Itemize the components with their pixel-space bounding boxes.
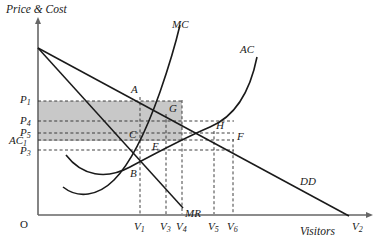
point-label-h: H	[216, 120, 224, 131]
visitor-label-v6-subscript: 6	[234, 225, 238, 234]
visitor-label-v2-subscript: 2	[359, 225, 363, 234]
dd-curve-label: DD	[300, 176, 316, 187]
visitor-label-v1: V1	[134, 221, 145, 232]
visitor-label-v5: V5	[208, 221, 219, 232]
visitor-label-v5-subscript: 5	[215, 225, 219, 234]
y-axis-title: Price & Cost	[6, 4, 67, 16]
visitor-label-v5-base: V	[208, 220, 215, 232]
visitor-label-v3-base: V	[160, 220, 167, 232]
price-label-p5-subscript: 5	[27, 131, 31, 140]
point-label-b: B	[130, 168, 137, 179]
mc-curve-label: MC	[172, 19, 189, 30]
visitor-label-v1-subscript: 1	[141, 225, 145, 234]
price-label-p3-base: P	[20, 144, 27, 156]
price-label-p4: P4	[20, 115, 31, 126]
visitor-label-v4: V4	[176, 221, 187, 232]
mr-curve-label: MR	[185, 208, 201, 219]
visitor-label-v1-base: V	[134, 220, 141, 232]
price-label-p1-base: P	[20, 93, 27, 105]
price-label-p3-subscript: 3	[27, 149, 31, 158]
y-axis-arrowhead	[35, 17, 41, 24]
visitor-label-v4-base: V	[176, 220, 183, 232]
price-label-p4-base: P	[20, 114, 27, 126]
point-label-e: E	[152, 141, 159, 152]
visitor-label-v3-subscript: 3	[167, 225, 171, 234]
visitor-label-v3: V3	[160, 221, 171, 232]
visitor-label-v2: V2	[352, 221, 363, 232]
economics-diagram: Price & Cost Visitors O MC AC DD MR A G …	[0, 0, 379, 248]
point-label-c: C	[129, 129, 136, 140]
visitor-label-v2-base: V	[352, 220, 359, 232]
price-label-p1-subscript: 1	[27, 98, 31, 107]
origin-label: O	[20, 219, 28, 230]
point-label-g: G	[169, 103, 177, 114]
price-label-p1: P1	[20, 94, 31, 105]
x-axis-arrowhead	[366, 212, 373, 218]
point-label-f: F	[237, 131, 244, 142]
visitor-label-v6: V6	[227, 221, 238, 232]
visitor-label-v4-subscript: 4	[183, 225, 187, 234]
ac-curve-label: AC	[240, 44, 254, 55]
visitor-label-v6-base: V	[227, 220, 234, 232]
x-axis-title: Visitors	[300, 226, 335, 238]
point-label-a: A	[131, 84, 138, 95]
price-label-p3: P3	[20, 145, 31, 156]
